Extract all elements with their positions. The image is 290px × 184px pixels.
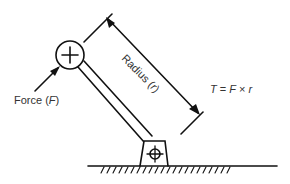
force-label-text: Force ( <box>14 94 49 106</box>
force-symbol-eq: F <box>229 83 236 95</box>
radius-symbol-eq: r <box>249 83 253 95</box>
force-symbol: F <box>49 94 56 106</box>
extension-line-bottom <box>181 112 203 134</box>
extension-line-top <box>84 14 112 42</box>
force-label: Force (F) <box>14 94 59 106</box>
radius-dimension-line <box>108 19 198 113</box>
radius-arrowhead-top-icon <box>106 17 115 28</box>
times-sign: × <box>236 83 249 95</box>
torque-symbol: T <box>210 83 217 95</box>
force-label-close: ) <box>56 94 60 106</box>
arm-outer-line <box>78 67 144 142</box>
ground-hatching <box>101 167 230 173</box>
torque-equation: T = F × r <box>210 83 252 95</box>
equals-sign: = <box>217 83 230 95</box>
